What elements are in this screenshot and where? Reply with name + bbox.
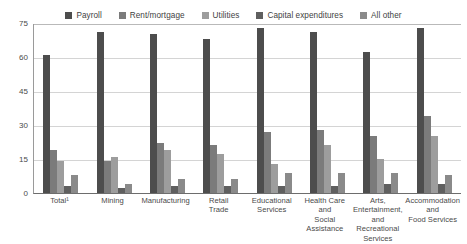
bar — [111, 157, 118, 193]
bar-group — [194, 24, 247, 193]
bar-group — [408, 24, 461, 193]
bar — [324, 145, 331, 193]
bar-group — [301, 24, 354, 193]
bar — [64, 186, 71, 193]
bar-group — [141, 24, 194, 193]
y-axis-tick-label: 75 — [19, 20, 28, 28]
bar — [178, 179, 185, 193]
bar — [391, 173, 398, 193]
x-axis-category-label: Manufacturing — [139, 196, 192, 205]
legend-item[interactable]: Payroll — [65, 11, 101, 20]
bar — [331, 186, 338, 193]
bar — [104, 161, 111, 193]
bar — [445, 175, 452, 193]
bar — [417, 28, 424, 193]
legend-item[interactable]: Rent/mortgage — [119, 11, 185, 20]
legend-item[interactable]: Utilities — [202, 11, 240, 20]
legend-item-label: Payroll — [76, 11, 101, 20]
plot-area — [33, 24, 461, 194]
bar — [97, 32, 104, 193]
bar — [370, 136, 377, 193]
bar — [224, 186, 231, 193]
bar — [50, 150, 57, 193]
bar — [317, 130, 324, 193]
bar — [203, 39, 210, 193]
bar — [210, 145, 217, 193]
bar — [171, 186, 178, 193]
y-axis-tick-label: 60 — [19, 54, 28, 62]
y-axis-tick-label: 15 — [19, 156, 28, 164]
legend-item-label: Rent/mortgage — [130, 11, 185, 20]
chart-legend: PayrollRent/mortgageUtilitiesCapital exp… — [0, 9, 467, 21]
x-axis-category-label: Arts,Entertainment,andRecreationalServic… — [351, 196, 404, 243]
bar — [438, 184, 445, 193]
bar — [150, 34, 157, 193]
bar — [310, 32, 317, 193]
bar — [264, 132, 271, 193]
x-axis-category-label: EducationalServices — [245, 196, 298, 215]
y-axis-tick-label: 0 — [24, 190, 28, 198]
x-axis-category-label: Health CareandSocialAssistance — [298, 196, 351, 234]
y-axis-tick-label: 30 — [19, 122, 28, 130]
bar — [271, 164, 278, 193]
bar — [431, 136, 438, 193]
bar — [285, 173, 292, 193]
legend-item-label: Capital expenditures — [267, 11, 343, 20]
x-axis-category-label: RetailTrade — [192, 196, 245, 215]
square-swatch — [256, 12, 263, 19]
chart-figure: PayrollRent/mortgageUtilitiesCapital exp… — [0, 0, 467, 244]
bar — [43, 55, 50, 193]
legend-item-label: Utilities — [213, 11, 240, 20]
legend-item[interactable]: All other — [360, 11, 402, 20]
bar — [424, 116, 431, 193]
bar — [377, 159, 384, 193]
bar — [118, 188, 125, 193]
square-swatch — [202, 12, 209, 19]
bar-group — [354, 24, 407, 193]
bar — [164, 150, 171, 193]
x-axis-category-label: Mining — [86, 196, 139, 205]
bar — [231, 179, 238, 193]
x-axis-category-labels: Total¹MiningManufacturingRetailTradeEduc… — [33, 196, 461, 243]
x-axis-category-label: AccommodationandFood Services — [404, 196, 461, 224]
bar — [384, 184, 391, 193]
square-swatch — [360, 12, 367, 19]
bar — [217, 154, 224, 193]
legend-item[interactable]: Capital expenditures — [256, 11, 343, 20]
bar — [125, 184, 132, 193]
square-swatch — [119, 12, 126, 19]
bar-group — [248, 24, 301, 193]
bar — [257, 28, 264, 193]
bar — [157, 143, 164, 193]
bar — [338, 173, 345, 193]
x-axis-category-label: Total¹ — [33, 196, 86, 205]
bar — [363, 52, 370, 193]
bar — [57, 161, 64, 193]
bar-groups — [34, 24, 461, 193]
bar-group — [34, 24, 87, 193]
legend-item-label: All other — [371, 11, 402, 20]
plot-wrapper: 01530456075 — [0, 24, 467, 194]
y-axis-tick-label: 45 — [19, 88, 28, 96]
bar — [278, 186, 285, 193]
bar — [71, 175, 78, 193]
y-axis-tick-labels: 01530456075 — [0, 24, 33, 194]
square-swatch — [65, 12, 72, 19]
bar-group — [87, 24, 140, 193]
